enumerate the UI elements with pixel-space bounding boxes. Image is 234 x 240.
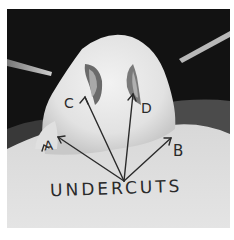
label-d: D <box>141 101 152 115</box>
label-a: A <box>43 139 53 153</box>
label-c: C <box>64 96 74 110</box>
label-b: B <box>173 144 183 159</box>
